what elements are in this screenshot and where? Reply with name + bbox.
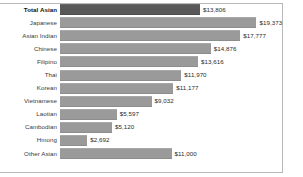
bar — [60, 109, 117, 120]
bar-row: Vietnamese$9,032 — [0, 95, 303, 108]
bar-row: Korean$11,177 — [0, 82, 303, 95]
bar — [60, 135, 87, 146]
bar — [60, 30, 240, 41]
bar-track: $19,373 — [60, 16, 303, 29]
bar-track: $13,806 — [60, 3, 303, 16]
value-label: $17,777 — [240, 32, 266, 40]
category-label: Cambodian — [0, 123, 60, 131]
bar-row: Other Asian$11,000 — [0, 147, 303, 160]
bar-row: Cambodian$5,120 — [0, 121, 303, 134]
bar-row: Japanese$19,373 — [0, 16, 303, 29]
value-label: $19,373 — [256, 19, 282, 27]
category-label: Hmong — [0, 136, 60, 144]
category-label: Korean — [0, 84, 60, 92]
category-label: Thai — [0, 71, 60, 79]
bar-chart: Total Asian$13,806Japanese$19,373Asian I… — [0, 0, 303, 177]
bar — [60, 148, 172, 159]
bar-track: $17,777 — [60, 29, 303, 42]
category-label: Total Asian — [0, 6, 60, 14]
category-label: Japanese — [0, 19, 60, 27]
bar-track: $11,000 — [60, 147, 303, 160]
bar-row: Hmong$2,692 — [0, 134, 303, 147]
value-label: $5,120 — [112, 123, 134, 131]
bar-rows-container: Total Asian$13,806Japanese$19,373Asian I… — [0, 3, 303, 173]
bar-row: Chinese$14,876 — [0, 42, 303, 55]
value-label: $11,177 — [173, 84, 198, 92]
bar — [60, 96, 152, 107]
bar — [60, 70, 181, 81]
bar — [60, 83, 173, 94]
bar — [60, 4, 200, 15]
bar — [60, 43, 211, 54]
bar-row: Thai$11,970 — [0, 68, 303, 81]
value-label: $11,970 — [181, 71, 206, 79]
category-label: Chinese — [0, 45, 60, 53]
category-label: Other Asian — [0, 150, 60, 158]
category-label: Vietnamese — [0, 97, 60, 105]
bar-row: Filipino$13,616 — [0, 55, 303, 68]
bar — [60, 17, 256, 28]
bar-track: $5,597 — [60, 108, 303, 121]
bar-row: Laotian$5,597 — [0, 108, 303, 121]
bar-track: $11,177 — [60, 82, 303, 95]
bar — [60, 56, 198, 67]
value-label: $9,032 — [152, 97, 174, 105]
bar-track: $5,120 — [60, 121, 303, 134]
value-label: $14,876 — [211, 45, 237, 53]
bar-track: $2,692 — [60, 134, 303, 147]
bar — [60, 122, 112, 133]
bar-track: $9,032 — [60, 95, 303, 108]
bar-row: Asian Indian$17,777 — [0, 29, 303, 42]
value-label: $2,692 — [87, 136, 109, 144]
category-label: Filipino — [0, 58, 60, 66]
category-label: Laotian — [0, 110, 60, 118]
bar-track: $13,616 — [60, 55, 303, 68]
value-label: $5,597 — [117, 110, 139, 118]
category-label: Asian Indian — [0, 32, 60, 40]
value-label: $11,000 — [172, 150, 197, 158]
value-label: $13,616 — [198, 58, 224, 66]
bar-track: $14,876 — [60, 42, 303, 55]
bar-track: $11,970 — [60, 68, 303, 81]
bar-row: Total Asian$13,806 — [0, 3, 303, 16]
value-label: $13,806 — [200, 6, 226, 14]
